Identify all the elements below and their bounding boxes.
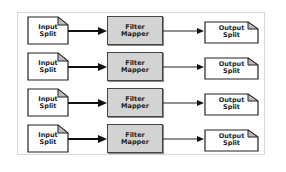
thick-arrow-icon	[68, 62, 108, 72]
thick-arrow-icon	[68, 26, 108, 36]
pipeline-row-4: Input Split Filter Mapper Output Split	[0, 124, 286, 156]
output-split-label-3b: Split	[204, 104, 259, 111]
pipeline-row-1: Input Split Filter Mapper Output Split	[0, 16, 286, 48]
thin-arrow-icon	[163, 134, 205, 144]
output-split-1: Output Split	[204, 21, 259, 44]
thin-arrow-icon	[163, 98, 205, 108]
output-split-label-2b: Split	[204, 68, 259, 75]
pipeline-row-2: Input Split Filter Mapper Output Split	[0, 52, 286, 84]
mapper-label-1b: Mapper	[108, 31, 162, 38]
pipeline-row-3: Input Split Filter Mapper Output Split	[0, 88, 286, 120]
mapper-label-3b: Mapper	[108, 103, 162, 110]
mapper-label-2b: Mapper	[108, 67, 162, 74]
thin-arrow-icon	[163, 26, 205, 36]
filter-mapper-1: Filter Mapper	[107, 16, 163, 45]
input-split-label-3b: Split	[27, 103, 69, 110]
thick-arrow-icon	[68, 134, 108, 144]
thick-arrow-icon	[68, 98, 108, 108]
filter-mapper-4: Filter Mapper	[107, 124, 163, 153]
output-split-2: Output Split	[204, 57, 259, 80]
filter-mapper-3: Filter Mapper	[107, 88, 163, 117]
output-split-label-1b: Split	[204, 32, 259, 39]
filter-mapper-2: Filter Mapper	[107, 52, 163, 81]
mapper-label-4b: Mapper	[108, 139, 162, 146]
input-split-2: Input Split	[27, 52, 69, 81]
input-split-3: Input Split	[27, 88, 69, 117]
output-split-label-4b: Split	[204, 140, 259, 147]
input-split-label-1b: Split	[27, 31, 69, 38]
input-split-label-2b: Split	[27, 67, 69, 74]
input-split-1: Input Split	[27, 16, 69, 45]
output-split-3: Output Split	[204, 93, 259, 116]
output-split-4: Output Split	[204, 129, 259, 152]
input-split-4: Input Split	[27, 124, 69, 153]
input-split-label-4b: Split	[27, 139, 69, 146]
thin-arrow-icon	[163, 62, 205, 72]
